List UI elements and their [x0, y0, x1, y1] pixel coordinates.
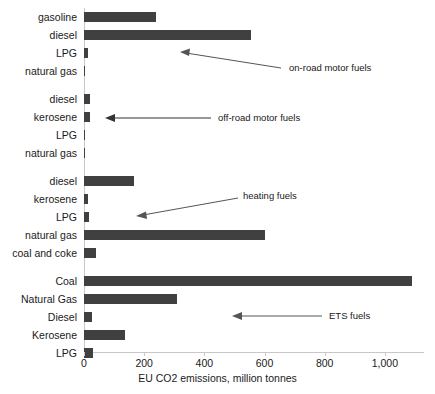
x-tick-label: 800 [316, 357, 334, 369]
bar [84, 276, 412, 286]
x-axis-title: EU CO2 emissions, million tonnes [0, 372, 435, 384]
annotation-on-road-motor-fuels: on-road motor fuels [289, 62, 371, 73]
x-tick [204, 352, 205, 356]
bar-row: diesel [84, 26, 424, 44]
category-label: Coal [55, 272, 77, 290]
category-label: kerosene [34, 190, 77, 208]
bar [84, 212, 89, 222]
category-label: coal and coke [12, 244, 77, 262]
category-label: gasoline [38, 8, 77, 26]
bar-row: gasoline [84, 8, 424, 26]
bar [84, 94, 90, 104]
annotation-heating-fuels: heating fuels [243, 190, 297, 201]
category-label: Natural Gas [21, 290, 77, 308]
x-tick-label: 0 [81, 357, 87, 369]
bar-row: Diesel [84, 308, 424, 326]
category-label: natural gas [25, 144, 77, 162]
x-tick-label: 200 [135, 357, 153, 369]
category-label: natural gas [25, 226, 77, 244]
bar [84, 330, 125, 340]
bar [84, 294, 177, 304]
bar-row: natural gas [84, 144, 424, 162]
bar [84, 112, 90, 122]
bar [84, 148, 85, 158]
bar-row: coal and coke [84, 244, 424, 262]
annotation-ets-fuels: ETS fuels [329, 310, 370, 321]
category-label: Kerosene [32, 326, 77, 344]
category-label: LPG [56, 344, 77, 362]
bar-row: LPG [84, 44, 424, 62]
category-label: LPG [56, 208, 77, 226]
bar [84, 130, 85, 140]
category-label: diesel [50, 172, 77, 190]
bar [84, 12, 156, 22]
category-label: Diesel [48, 308, 77, 326]
category-label: natural gas [25, 62, 77, 80]
category-label: diesel [50, 90, 77, 108]
bar [84, 30, 251, 40]
bar [84, 176, 134, 186]
bar-row: LPG [84, 208, 424, 226]
category-label: kerosene [34, 108, 77, 126]
bar [84, 194, 88, 204]
bar [84, 66, 85, 76]
bar-row: natural gas [84, 226, 424, 244]
bar [84, 230, 265, 240]
category-label: LPG [56, 44, 77, 62]
bar-row: Natural Gas [84, 290, 424, 308]
annotation-off-road-motor-fuels: off-road motor fuels [218, 112, 300, 123]
bar-row: Coal [84, 272, 424, 290]
plot-area: gasolinedieselLPGnatural gasdieselkerose… [84, 8, 424, 352]
bar-row: diesel [84, 90, 424, 108]
bar-row: LPG [84, 126, 424, 144]
bar-row: natural gas [84, 62, 424, 80]
bar [84, 48, 88, 58]
x-tick [144, 352, 145, 356]
category-label: diesel [50, 26, 77, 44]
x-tick [84, 352, 85, 356]
x-tick-label: 1,000 [372, 357, 398, 369]
x-tick [325, 352, 326, 356]
x-tick-label: 400 [196, 357, 214, 369]
x-tick [385, 352, 386, 356]
bar [84, 312, 92, 322]
bar [84, 248, 96, 258]
x-tick-label: 600 [256, 357, 274, 369]
bar-row: diesel [84, 172, 424, 190]
bar-chart: gasolinedieselLPGnatural gasdieselkerose… [0, 0, 435, 394]
x-tick [265, 352, 266, 356]
category-label: LPG [56, 126, 77, 144]
bar-row: Kerosene [84, 326, 424, 344]
